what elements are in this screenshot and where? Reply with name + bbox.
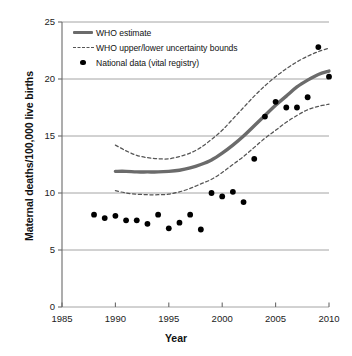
data-point-marker — [91, 212, 97, 218]
data-point-marker — [102, 215, 108, 221]
data-point-marker — [251, 156, 257, 162]
data-point-marker — [283, 105, 289, 111]
data-point-marker — [113, 213, 119, 219]
x-tick-label: 2010 — [309, 313, 349, 324]
y-tick-label: 25 — [29, 16, 55, 27]
data-point-marker — [230, 189, 236, 195]
x-tick-label: 1985 — [42, 313, 82, 324]
data-point-marker — [241, 199, 247, 205]
y-tick-label: 5 — [29, 244, 55, 255]
dot-marker-key-icon — [70, 56, 96, 69]
data-point-marker — [187, 212, 193, 218]
dashed-line-key-icon — [70, 41, 96, 54]
data-point-marker — [209, 190, 215, 196]
x-tick-label: 1990 — [95, 313, 135, 324]
who-estimate-line — [115, 71, 329, 172]
data-point-marker — [273, 99, 279, 105]
data-point-marker — [262, 114, 268, 120]
data-point-marker — [177, 220, 183, 226]
solid-line-key-icon — [70, 26, 96, 39]
legend-item-label: WHO upper/lower uncertainty bounds — [96, 43, 238, 53]
data-point-marker — [198, 227, 204, 233]
data-point-marker — [155, 212, 161, 218]
data-point-marker — [294, 105, 300, 111]
uncertainty-bound-line — [115, 104, 329, 195]
legend-item-uncertainty-bounds: WHO upper/lower uncertainty bounds — [70, 41, 260, 54]
data-point-marker — [326, 74, 332, 80]
y-tick-label: 0 — [29, 301, 55, 312]
data-point-marker — [315, 44, 321, 50]
x-axis-label: Year — [0, 332, 352, 344]
legend-item-label: WHO estimate — [96, 28, 151, 38]
y-tick-label: 20 — [29, 73, 55, 84]
y-tick-label: 10 — [29, 187, 55, 198]
chart-legend: WHO estimate WHO upper/lower uncertainty… — [70, 26, 260, 71]
legend-item-who-estimate: WHO estimate — [70, 26, 260, 39]
x-tick-label: 1995 — [149, 313, 189, 324]
y-tick-label: 15 — [29, 130, 55, 141]
x-tick-label: 2000 — [202, 313, 242, 324]
data-point-marker — [219, 194, 225, 200]
data-point-marker — [145, 221, 151, 227]
data-point-marker — [166, 225, 172, 231]
data-point-marker — [305, 94, 311, 100]
legend-item-label: National data (vital registry) — [96, 58, 199, 68]
data-point-marker — [134, 217, 140, 223]
x-tick-label: 2005 — [256, 313, 296, 324]
chart-figure: Maternal deaths/100,000 live births Year… — [0, 0, 352, 356]
legend-item-national-data: National data (vital registry) — [70, 56, 260, 69]
data-point-marker — [123, 217, 129, 223]
